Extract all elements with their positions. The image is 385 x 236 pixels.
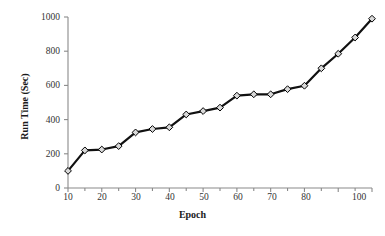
plot-canvas	[0, 0, 385, 236]
data-line-run-time	[68, 19, 372, 171]
data-point-marker	[98, 146, 105, 153]
data-point-marker	[149, 126, 156, 133]
axes	[64, 17, 372, 192]
data-point-marker	[284, 86, 291, 93]
data-point-marker	[200, 108, 207, 115]
data-point-marker	[267, 91, 274, 98]
chart-figure: Run Time (Sec) Epoch 1000 800 600 400 20…	[0, 0, 385, 236]
x-tick-marks	[68, 188, 372, 192]
y-tick-marks	[64, 17, 68, 188]
data-markers	[65, 15, 376, 174]
data-point-marker	[250, 91, 257, 98]
